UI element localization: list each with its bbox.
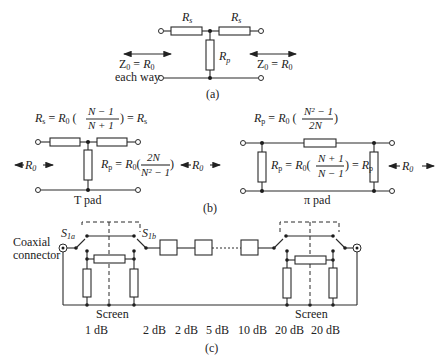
pad-20db-shunt-left (283, 268, 291, 298)
svg-text:N² − 1: N² − 1 (303, 105, 333, 117)
pad-block-10db (241, 240, 258, 255)
resistor-rs-left (50, 138, 80, 146)
switch-s1b-label: S1b (142, 226, 156, 241)
pad-1db-shunt-left (83, 269, 91, 297)
attenuation-label: 20 dB (311, 323, 340, 337)
formula-rp: Rp = R0( (100, 157, 140, 172)
label-z0-right: Z0 = R0 (257, 57, 292, 72)
terminal-icon (136, 140, 141, 145)
terminal-icon (36, 140, 41, 145)
resistor-series (304, 139, 336, 147)
caption-c: (c) (205, 341, 218, 355)
formula-rs: Rs = R0 ( (34, 111, 77, 126)
svg-text:N + 1: N + 1 (87, 119, 114, 131)
resistor-rs-left (171, 27, 202, 35)
resistor-rs-right (219, 27, 250, 35)
switch-s1a-label: S1a (61, 226, 75, 241)
terminal-icon (241, 189, 246, 194)
terminal-icon (259, 29, 264, 34)
formula-rp-top: Rp = R0 ( (253, 111, 296, 126)
pad-1db-shunt-right (130, 269, 138, 297)
terminal-icon (241, 141, 246, 146)
pad-block-2db (195, 240, 212, 255)
switch-s1a-blade (76, 239, 85, 248)
part-c-step-attenuator: Coaxial connector S1a S1b (13, 222, 361, 355)
terminal-icon (136, 188, 141, 193)
label-r0-right: R0 (191, 158, 203, 173)
terminal-icon (259, 76, 264, 81)
part-b-t-pad: Rs = R0 ( N − 1 N + 1 ) = Rs R0 Rp = R0(… (15, 105, 220, 215)
label-rs-right: Rs (230, 10, 241, 25)
resistor-rp (84, 150, 92, 180)
resistor-rp (206, 40, 214, 70)
resistor-shunt-left (258, 152, 266, 182)
svg-text:N² − 1: N² − 1 (140, 166, 170, 178)
pad-20db-shunt-right (329, 268, 337, 298)
svg-text:N + 1: N + 1 (317, 152, 344, 164)
terminal-icon (390, 141, 395, 146)
svg-text:) = Rs: ) = Rs (120, 111, 147, 126)
svg-text:) = Rp: ) = Rp (345, 158, 373, 173)
svg-text:2N: 2N (309, 119, 323, 131)
part-b-pi-pad: Rp = R0 ( N² − 1 2N ) Rp = R0( N + 1 N −… (241, 105, 435, 207)
screen-label-right: Screen (295, 307, 328, 321)
svg-text:): ) (170, 157, 174, 171)
screen-label-left: Screen (96, 307, 129, 321)
terminal-icon (390, 189, 395, 194)
pad-block-2db (160, 240, 177, 255)
label-r0-right: R0 (401, 159, 413, 174)
attenuation-label: 5 dB (206, 323, 229, 337)
terminal-icon (159, 29, 164, 34)
label-each-way: each way (115, 70, 160, 84)
terminal-icon (36, 188, 41, 193)
svg-text:N − 1: N − 1 (317, 167, 344, 179)
pad-20db-series-resistor (295, 256, 326, 264)
svg-text:N − 1: N − 1 (87, 105, 114, 117)
attenuation-label: 1 dB (85, 323, 108, 337)
svg-text:): ) (334, 111, 338, 125)
svg-text:2N: 2N (147, 151, 161, 163)
caption-b: (b) (203, 201, 217, 215)
switch-s1b-blade (137, 239, 146, 248)
attenuation-label: 20 dB (275, 323, 304, 337)
formula-rp-mid: Rp = R0( (270, 158, 310, 173)
label-rp: Rp (218, 49, 230, 65)
caption-a: (a) (206, 87, 219, 101)
pad-1db-series-resistor (94, 255, 125, 263)
coaxial-connector-label: connector (13, 248, 60, 262)
attenuation-label: 2 dB (175, 323, 198, 337)
attenuation-label: 10 dB (238, 323, 267, 337)
pi-pad-label: π pad (304, 193, 330, 207)
t-pad-label: T pad (74, 193, 101, 207)
part-a-symmetric-t-network: Rs Rs Rp Z0 = R0 each way Z0 = R0 (a) (115, 10, 296, 101)
attenuator-pad-diagram: Rs Rs Rp Z0 = R0 each way Z0 = R0 (a) Rs… (0, 0, 445, 364)
label-rs-left: Rs (181, 10, 192, 25)
label-r0-left: R0 (24, 158, 36, 173)
resistor-rs-right (97, 138, 127, 146)
coaxial-connector-label: Coaxial (13, 235, 51, 249)
attenuation-label: 2 dB (143, 323, 166, 337)
